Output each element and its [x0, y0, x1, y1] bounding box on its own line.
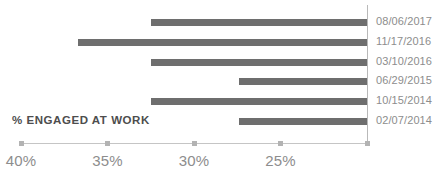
bar — [239, 118, 367, 125]
bar-category-label: 06/29/2015 — [376, 74, 432, 86]
bar-category-label: 08/06/2017 — [376, 15, 432, 27]
bar — [151, 98, 367, 105]
engagement-bar-chart: 08/06/201711/17/201603/10/201606/29/2015… — [0, 0, 441, 192]
axis-tick-label: 25% — [265, 152, 296, 169]
axis-tick-mark — [278, 141, 283, 146]
bar — [151, 59, 367, 66]
axis-tick-label: 35% — [92, 152, 123, 169]
value-axis-line — [367, 5, 368, 144]
axis-tick-label: 30% — [179, 152, 210, 169]
bar — [151, 19, 367, 26]
bar-category-label: 11/17/2016 — [376, 35, 431, 47]
bar-category-label: 10/15/2014 — [376, 94, 432, 106]
bar — [78, 39, 367, 46]
axis-tick-mark — [105, 141, 110, 146]
bar-category-label: 02/07/2014 — [376, 114, 432, 126]
axis-tick-mark — [192, 141, 197, 146]
axis-title: % ENGAGED AT WORK — [12, 114, 150, 126]
axis-tick-label: 40% — [6, 152, 37, 169]
axis-tick-mark — [19, 141, 24, 146]
bar — [239, 78, 367, 85]
plot-area: 08/06/201711/17/201603/10/201606/29/2015… — [0, 0, 441, 150]
axis-tick-mark — [365, 141, 370, 146]
bar-category-label: 03/10/2016 — [376, 55, 432, 67]
